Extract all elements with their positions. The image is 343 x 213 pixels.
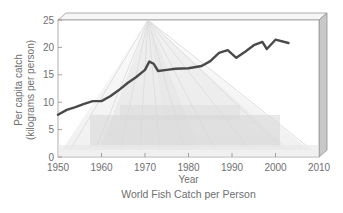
box-side-face	[319, 13, 327, 157]
y-tick-label: 25	[43, 15, 55, 26]
y-axis-title-line2: (kilograms per person)	[25, 40, 36, 140]
y-axis-title: Per capita catch (kilograms per person)	[13, 40, 36, 140]
x-tick-label: 1950	[47, 162, 70, 173]
x-tick-label: 2000	[264, 162, 287, 173]
x-tick-label: 1980	[177, 162, 200, 173]
y-tick-label: 15	[43, 69, 55, 80]
x-tick-label: 1960	[90, 162, 113, 173]
y-tick-label: 5	[48, 124, 54, 135]
y-tick-label: 20	[43, 42, 55, 53]
y-tick-label: 0	[48, 152, 54, 163]
x-tick-label: 1990	[221, 162, 244, 173]
x-axis-title: Year	[178, 174, 199, 185]
chart-caption: World Fish Catch per Person	[121, 188, 256, 200]
fish-catch-chart: 0 5 10 15 20 25 Per capita catch (kilogr…	[0, 0, 343, 213]
y-tick-label: 10	[43, 97, 55, 108]
x-tick-label: 1970	[134, 162, 157, 173]
x-tick-label: 2010	[308, 162, 331, 173]
y-axis-title-line1: Per capita catch	[13, 54, 24, 126]
box-top-face	[58, 13, 327, 20]
